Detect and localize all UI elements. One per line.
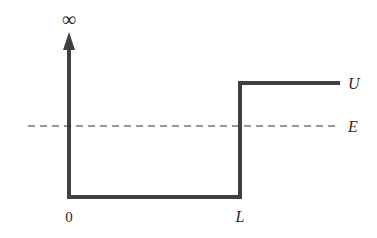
infinity-label: ∞ <box>62 8 76 30</box>
potential-well-diagram: ∞ 0 L U E <box>0 0 377 238</box>
origin-label: 0 <box>65 209 73 225</box>
arrow-up-icon <box>63 32 75 50</box>
barrier-label: U <box>348 75 361 92</box>
energy-label: E <box>347 118 358 135</box>
length-label: L <box>235 208 245 225</box>
